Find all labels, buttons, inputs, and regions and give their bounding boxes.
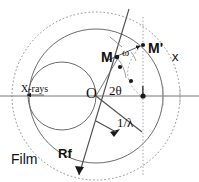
point-m-marker	[115, 55, 120, 60]
lambda-arrowhead	[110, 129, 120, 137]
label-origin: O	[86, 86, 97, 101]
label-angle-two-theta: 2θ	[109, 84, 122, 97]
label-point-m: M	[101, 50, 113, 64]
point-m-prime-marker	[141, 43, 145, 47]
label-film: Film	[11, 152, 37, 166]
arc-dot-upper	[118, 65, 122, 69]
lambda-arrow-shaft	[96, 121, 116, 132]
diagonal-arrowhead	[75, 166, 84, 175]
reciprocal-arc	[128, 46, 141, 95]
label-axis-x: x	[172, 50, 179, 63]
label-reciprocal-lambda: 1/λ	[117, 116, 133, 129]
label-point-m-prime: M'	[148, 41, 163, 55]
label-xrays: X-rays	[21, 84, 48, 94]
arc-dot-lower	[129, 79, 133, 83]
ewald-sphere-figure: O M M' I ω 2θ 1/λ X-rays Film Rf x	[0, 0, 199, 182]
label-point-i: I	[141, 84, 145, 97]
label-angle-omega: ω	[122, 47, 129, 58]
label-rf: Rf	[58, 147, 72, 160]
